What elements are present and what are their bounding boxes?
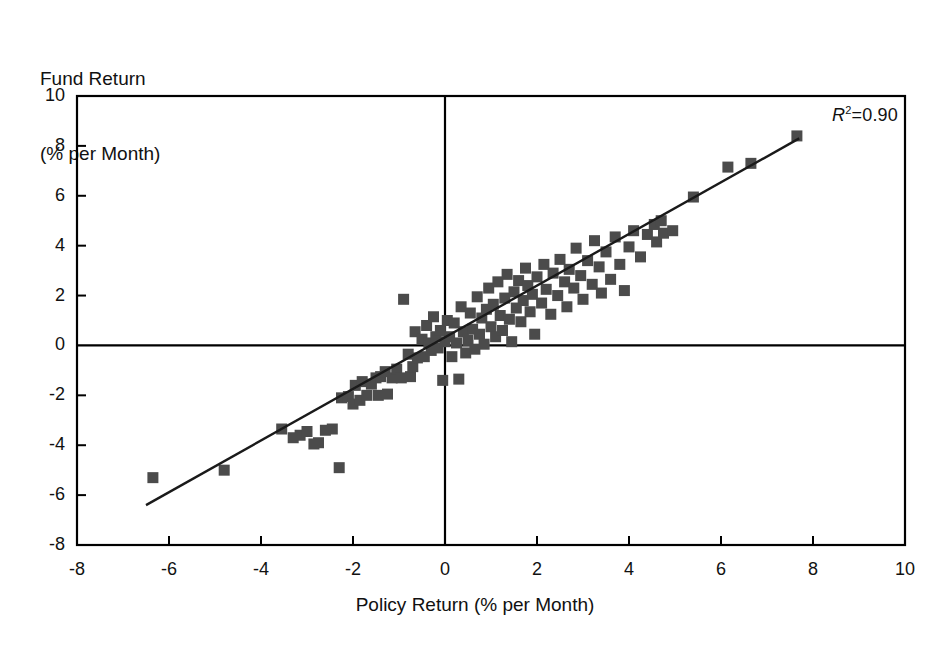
data-point xyxy=(525,306,536,317)
data-point xyxy=(541,284,552,295)
data-point xyxy=(506,336,517,347)
data-point xyxy=(502,269,513,280)
data-point xyxy=(147,472,158,483)
data-point xyxy=(486,321,497,332)
chart-figure: Fund Return (% per Month) R2=0.90 Policy… xyxy=(0,0,950,646)
data-point xyxy=(568,283,579,294)
data-point xyxy=(578,294,589,305)
data-point xyxy=(605,274,616,285)
data-point xyxy=(520,263,531,274)
data-point xyxy=(532,271,543,282)
data-point xyxy=(722,162,733,173)
data-point xyxy=(619,285,630,296)
scatter-plot-canvas xyxy=(0,0,950,646)
data-point xyxy=(451,337,462,348)
data-point xyxy=(555,254,566,265)
data-point xyxy=(614,259,625,270)
data-point xyxy=(545,309,556,320)
data-point xyxy=(453,374,464,385)
data-point xyxy=(575,270,586,281)
data-point xyxy=(552,290,563,301)
data-point xyxy=(437,375,448,386)
data-point xyxy=(472,291,483,302)
data-point xyxy=(529,329,540,340)
data-point xyxy=(313,437,324,448)
data-point xyxy=(571,243,582,254)
data-point xyxy=(382,389,393,400)
data-point xyxy=(334,462,345,473)
data-point-group xyxy=(147,130,802,483)
data-point xyxy=(405,371,416,382)
data-point xyxy=(327,424,338,435)
data-point xyxy=(428,311,439,322)
data-point xyxy=(361,390,372,401)
data-point xyxy=(465,308,476,319)
data-point xyxy=(474,329,485,340)
data-point xyxy=(561,301,572,312)
data-point xyxy=(536,298,547,309)
regression-line xyxy=(146,138,799,505)
data-point xyxy=(515,316,526,327)
data-point xyxy=(624,241,635,252)
data-point xyxy=(479,339,490,350)
data-point xyxy=(635,251,646,262)
data-point xyxy=(596,288,607,299)
data-point xyxy=(219,465,230,476)
plot-frame xyxy=(77,96,905,545)
data-point xyxy=(497,325,508,336)
data-point xyxy=(667,225,678,236)
data-point xyxy=(594,261,605,272)
data-point xyxy=(504,314,515,325)
data-point xyxy=(446,351,457,362)
data-point xyxy=(589,235,600,246)
data-point xyxy=(398,294,409,305)
data-point xyxy=(302,426,313,437)
